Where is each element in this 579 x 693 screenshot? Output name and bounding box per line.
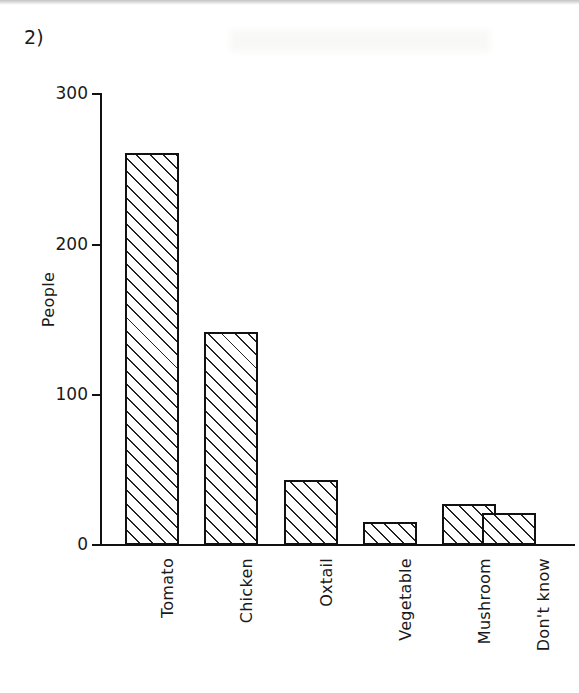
y-tick-mark-100 [92,394,101,396]
y-tick-mark-300 [92,93,101,95]
x-tick-label-vegetable: Vegetable [398,558,414,641]
bar-tomato [125,153,179,545]
bar-oxtail [284,480,338,545]
y-axis-tick-labels: 300 200 100 0 [20,0,88,693]
y-tick-mark-200 [92,244,101,246]
y-tick-label-200: 200 [28,236,88,253]
x-tick-label-dont-know: Don't know [536,558,552,651]
x-tick-label-mushroom: Mushroom [477,558,493,644]
bar-dont-know [482,513,536,545]
y-axis-line [100,93,102,546]
y-tick-label-300: 300 [28,85,88,102]
bar-vegetable [363,522,417,545]
bar-chart-plot-area: 300 200 100 0 People Tomato Chicken Oxta… [0,0,579,693]
y-axis-title: People [39,270,58,330]
x-tick-label-oxtail: Oxtail [319,558,335,607]
y-tick-label-0: 0 [28,536,88,553]
y-tick-label-100: 100 [28,386,88,403]
x-tick-label-chicken: Chicken [239,558,255,623]
x-tick-label-tomato: Tomato [160,558,176,618]
bar-chicken [204,332,258,545]
y-tick-mark-0 [92,544,101,546]
